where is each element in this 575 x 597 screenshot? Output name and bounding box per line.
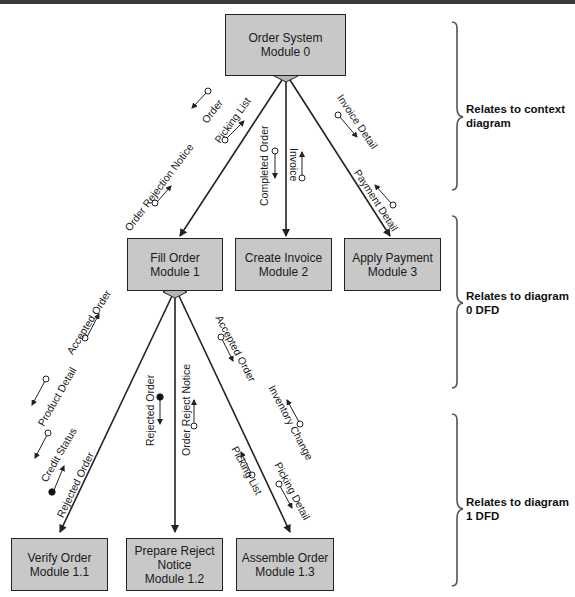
module-title: Assemble Order	[242, 551, 329, 565]
module-number: Module 3	[368, 265, 417, 279]
module-number: Module 1	[150, 265, 199, 279]
module-number: Module 2	[259, 265, 308, 279]
note-diagram-0-dfd: Relates to diagram 0 DFD	[466, 289, 569, 317]
module-fill-order[interactable]: Fill Order Module 1	[127, 238, 223, 291]
note-context-diagram: Relates to context diagram	[466, 102, 565, 130]
note-diagram-1-dfd: Relates to diagram 1 DFD	[466, 495, 569, 523]
module-number: Module 1.1	[30, 565, 89, 579]
module-subtitle: Notice	[157, 558, 191, 572]
module-title: Order System	[248, 31, 322, 45]
module-number: Module 1.3	[255, 565, 314, 579]
module-title: Prepare Reject	[134, 544, 214, 558]
module-verify-order[interactable]: Verify Order Module 1.1	[11, 538, 108, 591]
module-assemble-order[interactable]: Assemble Order Module 1.3	[236, 538, 334, 591]
module-title: Verify Order	[27, 551, 91, 565]
flow-label-completed-order: Completed Order	[258, 125, 270, 206]
module-title: Create Invoice	[245, 251, 322, 265]
module-title: Apply Payment	[352, 251, 433, 265]
module-order-system[interactable]: Order System Module 0	[225, 14, 346, 76]
flow-label-rejected-order-mid: Rejected Order	[144, 375, 156, 446]
module-apply-payment[interactable]: Apply Payment Module 3	[344, 238, 441, 291]
module-prepare-reject-notice[interactable]: Prepare Reject Notice Module 1.2	[126, 538, 223, 591]
flow-label-order-reject-notice: Order Reject Notice	[180, 364, 192, 456]
flow-label-invoice: Invoice	[288, 148, 300, 181]
module-title: Fill Order	[150, 251, 199, 265]
module-create-invoice[interactable]: Create Invoice Module 2	[235, 238, 332, 291]
module-number: Module 1.2	[145, 572, 204, 586]
module-number: Module 0	[261, 45, 310, 59]
